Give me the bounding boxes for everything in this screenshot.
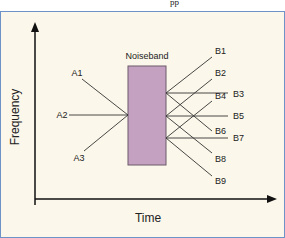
label-b1: B1 [215, 46, 226, 56]
noiseband-label: Noiseband [125, 51, 168, 61]
x-axis-arrow-icon [267, 195, 277, 203]
x-axis [35, 195, 277, 203]
label-a1: A1 [71, 68, 82, 78]
label-b5: B5 [233, 111, 244, 121]
noiseband-box [128, 66, 166, 165]
x-axis-label: Time [135, 211, 162, 225]
y-axis-arrow-icon [31, 22, 39, 32]
noiseband-diagram: Frequency Time Noiseband A1 A2 A3 B1 B2 … [0, 0, 285, 238]
label-b4: B4 [215, 91, 226, 101]
label-a3: A3 [73, 153, 84, 163]
label-b9: B9 [215, 176, 226, 186]
y-axis [31, 22, 39, 205]
label-a2: A2 [56, 110, 67, 120]
label-b6: B6 [215, 126, 226, 136]
label-b2: B2 [215, 68, 226, 78]
y-axis-label: Frequency [8, 89, 22, 146]
label-b3: B3 [233, 89, 244, 99]
incoming-lines [69, 79, 128, 151]
label-b7: B7 [233, 133, 244, 143]
label-b8: B8 [215, 154, 226, 164]
